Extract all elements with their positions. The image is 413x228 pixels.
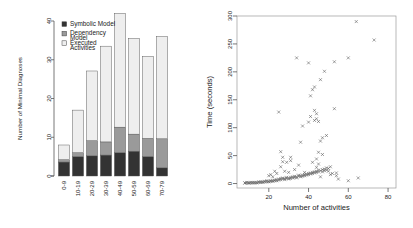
- scatter-point: [283, 170, 286, 173]
- bar-segment: [142, 56, 153, 138]
- scatter-point: [293, 168, 296, 171]
- scatter-point: [295, 56, 298, 59]
- scatter-point: [357, 176, 360, 179]
- scatter-point: [317, 120, 320, 123]
- legend-swatch-2: [62, 31, 67, 36]
- bar-ytick-label: 0: [46, 174, 52, 178]
- scatter-point: [309, 94, 312, 97]
- bar-segment: [100, 46, 111, 142]
- scatter-point: [311, 161, 314, 164]
- scatter-y-axis-title: Time (seconds): [205, 76, 214, 129]
- bar-segment: [128, 134, 139, 151]
- bar-segment: [72, 153, 83, 157]
- bar-segment: [86, 156, 97, 176]
- bar-segment: [58, 160, 69, 162]
- scatter-point: [321, 153, 324, 156]
- scatter-point: [279, 165, 282, 168]
- scatter-point: [277, 111, 280, 114]
- scatter-point: [319, 175, 322, 178]
- scatter-point: [315, 166, 318, 169]
- scatter-point: [285, 161, 288, 164]
- legend-swatch-3: [62, 41, 67, 46]
- bar-xtick-label: 0-9: [61, 180, 67, 189]
- bar-segment: [86, 141, 97, 156]
- scatter-point: [325, 134, 328, 137]
- bar-chart-panel: 010203040Number of Minimal Diagnoses0-91…: [0, 0, 200, 228]
- bar-segment: [142, 138, 153, 156]
- bar-ytick-label: 10: [46, 133, 52, 140]
- scatter-ytick-label: 150: [227, 94, 233, 105]
- scatter-point: [281, 156, 284, 159]
- bar-ytick-label: 40: [46, 17, 52, 24]
- scatter-point: [347, 179, 350, 182]
- bar-segment: [72, 110, 83, 153]
- bar-segment: [58, 145, 69, 160]
- legend-label-symbolic-model: Symbolic Model: [70, 20, 115, 28]
- scatter-point: [301, 125, 304, 128]
- bar-xtick-label: 10-19: [75, 180, 81, 196]
- scatter-xtick-label: 40: [305, 194, 312, 200]
- scatter-point: [287, 171, 290, 174]
- scatter-point: [271, 175, 274, 178]
- bar-y-axis-title: Number of Minimal Diagnoses: [16, 57, 23, 140]
- scatter-point: [373, 39, 376, 42]
- scatter-point: [333, 107, 336, 110]
- bar-chart-svg: 010203040Number of Minimal Diagnoses0-91…: [0, 0, 200, 228]
- scatter-chart-panel: 05010015020025030020406080Number of acti…: [200, 0, 413, 228]
- scatter-x-axis-title: Number of activities: [283, 203, 350, 212]
- scatter-point: [337, 178, 340, 181]
- bar-segment: [156, 139, 167, 168]
- scatter-point: [329, 165, 332, 168]
- bar-segment: [72, 157, 83, 176]
- scatter-point: [317, 162, 320, 165]
- scatter-point: [323, 70, 326, 73]
- legend-label-line2: Activities: [70, 44, 95, 51]
- scatter-ytick-label: 300: [227, 10, 233, 21]
- scatter-plot-area: 05010015020025030020406080Number of acti…: [205, 10, 396, 212]
- bar-segment: [156, 37, 167, 139]
- scatter-point: [275, 172, 278, 175]
- bar-segment: [114, 127, 125, 153]
- scatter-point: [309, 115, 312, 118]
- scatter-ytick-label: 100: [227, 122, 233, 133]
- scatter-point: [315, 117, 318, 120]
- scatter-ytick-label: 200: [227, 66, 233, 77]
- scatter-chart-svg: 05010015020025030020406080Number of acti…: [200, 0, 413, 228]
- scatter-point: [355, 20, 358, 23]
- figure-root: 010203040Number of Minimal Diagnoses0-91…: [0, 0, 413, 228]
- scatter-point: [319, 140, 322, 143]
- scatter-xtick-label: 60: [345, 194, 352, 200]
- bar-xtick-label: 20-29: [89, 180, 95, 196]
- scatter-plot-box: [237, 16, 396, 188]
- scatter-point: [335, 171, 338, 174]
- bar-xtick-label: 40-49: [117, 180, 123, 196]
- scatter-point: [321, 136, 324, 139]
- bar-segment: [142, 157, 153, 176]
- bar-segment: [114, 153, 125, 176]
- bar-segment: [114, 13, 125, 127]
- scatter-point: [307, 121, 310, 124]
- bar-segment: [86, 71, 97, 141]
- scatter-point: [299, 141, 302, 144]
- scatter-point: [281, 160, 284, 163]
- bar-xtick-label: 50-59: [131, 180, 137, 196]
- scatter-point: [317, 151, 320, 154]
- scatter-point: [313, 85, 316, 88]
- scatter-ytick-label: 250: [227, 38, 233, 49]
- scatter-ytick-label: 50: [227, 152, 233, 159]
- scatter-point: [311, 88, 314, 91]
- scatter-point: [289, 156, 292, 159]
- legend-swatch-1: [62, 22, 67, 27]
- bar-ytick-label: 30: [46, 56, 52, 63]
- scatter-point: [307, 61, 310, 64]
- scatter-point: [315, 157, 318, 160]
- bar-ytick-label: 20: [46, 95, 52, 102]
- bar-xtick-label: 60-69: [145, 180, 151, 196]
- bar-segment: [58, 162, 69, 176]
- scatter-point: [289, 159, 292, 162]
- scatter-xtick-label: 80: [385, 194, 392, 200]
- scatter-point: [313, 109, 316, 112]
- scatter-point: [297, 164, 300, 167]
- scatter-xtick-label: 20: [265, 194, 272, 200]
- scatter-point: [315, 112, 318, 115]
